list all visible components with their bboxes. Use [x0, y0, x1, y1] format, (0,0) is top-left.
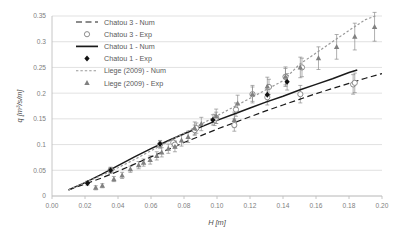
y-axis-tick-label: 0.05 [33, 167, 46, 174]
y-axis-tick-label: 0 [42, 192, 46, 199]
x-axis-tick-label: 0.02 [79, 202, 92, 209]
x-axis-tick-label: 0.06 [145, 202, 158, 209]
x-axis-title: H [m] [208, 218, 227, 227]
y-axis-tick-label: 0.1 [37, 141, 46, 148]
plot-background [52, 16, 382, 196]
y-axis-tick-label: 0.25 [33, 64, 46, 71]
chart-canvas: 00.050.10.150.20.250.30.350.000.020.040.… [0, 0, 396, 242]
legend-item-label: Chatou 1 - Num [104, 42, 155, 51]
legend-item-label: Chatou 3 - Num [104, 18, 155, 27]
legend-item-label: Liege (2009) - Num [104, 66, 166, 75]
x-axis-tick-label: 0.10 [211, 202, 224, 209]
x-axis-tick-label: 0.12 [244, 202, 257, 209]
x-axis-tick-label: 0.20 [376, 202, 389, 209]
y-axis-title: q [m³/s/m] [15, 89, 24, 123]
y-axis-tick-label: 0.2 [37, 90, 46, 97]
y-axis-tick-label: 0.3 [37, 38, 46, 45]
x-axis-tick-label: 0.16 [310, 202, 323, 209]
x-axis-tick-label: 0.14 [277, 202, 290, 209]
data-point-open-circle [298, 92, 303, 97]
x-axis-tick-label: 0.08 [178, 202, 191, 209]
x-axis-tick-label: 0.18 [343, 202, 356, 209]
data-point-open-circle [232, 122, 237, 127]
y-axis-tick-label: 0.35 [33, 12, 46, 19]
legend-item-label: Chatou 3 - Exp [104, 30, 152, 39]
legend-glyph-open-circle [84, 32, 89, 37]
legend-item-label: Liege (2009) - Exp [104, 79, 163, 88]
y-axis-tick-label: 0.15 [33, 115, 46, 122]
chart-figure: 00.050.10.150.20.250.30.350.000.020.040.… [0, 0, 396, 242]
x-axis-tick-label: 0.04 [112, 202, 125, 209]
data-point-open-circle [233, 107, 238, 112]
legend-item-label: Chatou 1 - Exp [104, 54, 152, 63]
x-axis-tick-label: 0.00 [46, 202, 59, 209]
data-point-open-circle [352, 80, 357, 85]
